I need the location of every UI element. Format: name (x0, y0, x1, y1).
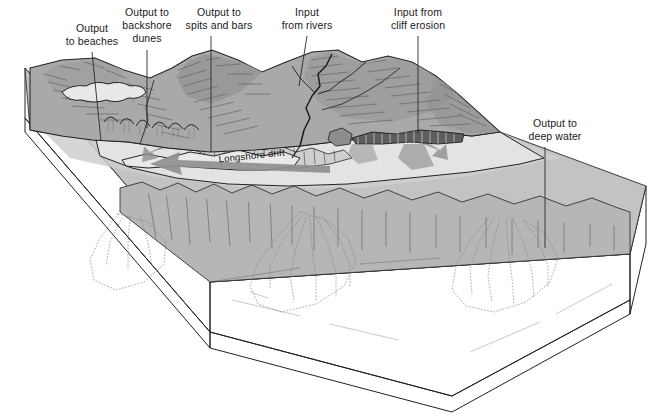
label-output-to-spits-and-bars: Output to spits and bars (186, 6, 253, 31)
label-output-to-beaches-line1: Output (76, 22, 108, 34)
label-input-from-cliff-erosion-line1: Input from (394, 6, 442, 18)
label-input-from-rivers-line2: from rivers (282, 19, 333, 31)
label-output-to-backshore-dunes-line1: Output to (125, 6, 169, 18)
block-diagram-figure: Output to beaches Output to backshore du… (0, 0, 654, 418)
label-output-to-deep-water-line2: deep water (529, 130, 582, 142)
label-output-to-backshore-dunes-line2: backshore (122, 19, 171, 31)
label-input-from-cliff-erosion-line2: cliff erosion (391, 19, 445, 31)
label-output-to-beaches-line2: to beaches (66, 35, 118, 47)
block-front-lower-face (210, 300, 630, 412)
label-output-to-deep-water-line1: Output to (533, 117, 577, 129)
strata-lines-front (232, 284, 612, 352)
label-output-to-spits-and-bars-line1: Output to (197, 6, 241, 18)
label-input-from-cliff-erosion: Input from cliff erosion (391, 6, 445, 31)
label-input-from-rivers: Input from rivers (282, 6, 333, 31)
label-input-from-rivers-line1: Input (295, 6, 319, 18)
label-output-to-deep-water: Output to deep water (529, 117, 582, 142)
label-output-to-spits-and-bars-line2: spits and bars (186, 19, 253, 31)
coastal-sediment-cell-diagram: Output to beaches Output to backshore du… (0, 0, 654, 418)
label-output-to-backshore-dunes-line3: dunes (132, 32, 161, 44)
label-output-to-beaches: Output to beaches (66, 22, 118, 47)
label-output-to-backshore-dunes: Output to backshore dunes (122, 6, 171, 44)
